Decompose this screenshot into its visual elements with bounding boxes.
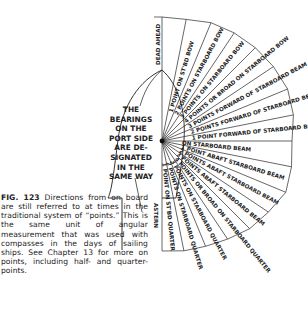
- bearing-label: DEAD AHEAD: [155, 23, 161, 65]
- port-side-note: THE BEARINGS ON THE PORT SIDE ARE DE- SI…: [103, 105, 159, 182]
- port-note-line: IN THE: [103, 163, 159, 173]
- port-note-line: PORT SIDE: [103, 134, 159, 144]
- figure-number: FIG. 123: [1, 193, 40, 202]
- port-note-line: THE: [103, 105, 159, 115]
- port-note-line: SAME WAY: [103, 172, 159, 182]
- port-note-line: ARE DE-: [103, 143, 159, 153]
- port-note-line: SIGNATED: [103, 153, 159, 163]
- port-note-line: BEARINGS: [103, 115, 159, 125]
- bearing-labels: DEAD AHEAD1 POINT ON ST'BD BOW2 POINTS O…: [153, 23, 308, 274]
- center-hub: [160, 139, 165, 144]
- figure-caption: FIG. 123 Directions from on board are st…: [1, 193, 148, 275]
- figure-caption-text: Directions from on board are still refer…: [1, 193, 148, 275]
- port-note-leader-top: [140, 70, 162, 106]
- port-note-line: ON THE: [103, 124, 159, 134]
- bearing-label: ASTERN: [153, 203, 159, 228]
